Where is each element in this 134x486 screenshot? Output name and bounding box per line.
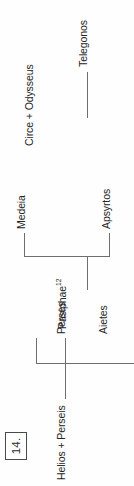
node-apsyrtos: Apsyrtos	[101, 189, 112, 229]
figure-page: 14. Helios + Perseis Perses Aietes Pasip…	[0, 0, 134, 486]
connector-circe-to-telegonos	[87, 72, 88, 118]
node-circe-odysseus: Circe + Odysseus	[24, 64, 35, 146]
connector-aietes-stem	[87, 256, 88, 290]
connector-root-stem	[65, 363, 66, 399]
node-medeia: Medeia	[16, 195, 27, 229]
genealogy-tree: Helios + Perseis Perses Aietes Pasiphae1…	[0, 0, 134, 486]
connector-aietes-children-spine	[24, 256, 110, 257]
node-helios-perseis: Helios + Perseis	[56, 405, 67, 480]
connector-branch-circe	[36, 338, 37, 364]
connector-branch-apsyrtos	[109, 233, 110, 257]
connector-branch-medeia	[24, 233, 25, 257]
node-pasiphae-label: Pasiphae	[56, 286, 68, 329]
node-pasiphae: Pasiphae12	[56, 279, 67, 329]
node-telegonos: Telegonos	[78, 20, 89, 67]
connector-generation2-spine	[36, 363, 134, 364]
node-aietes: Aietes	[98, 305, 109, 334]
connector-branch-perses	[65, 338, 66, 364]
node-pasiphae-footnote: 12	[55, 279, 62, 286]
